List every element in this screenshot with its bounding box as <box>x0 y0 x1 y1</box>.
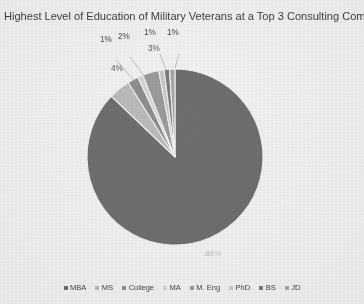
legend-label: MBA <box>70 283 86 292</box>
legend-label: College <box>129 283 154 292</box>
legend-item-jd[interactable]: JD <box>285 283 301 292</box>
leader-line <box>160 54 166 70</box>
legend-swatch-icon <box>95 286 99 290</box>
legend-item-mba[interactable]: MBA <box>64 283 87 292</box>
pie-chart-graphic <box>0 22 364 278</box>
legend-label: MA <box>170 283 181 292</box>
legend-item-bs[interactable]: BS <box>259 283 276 292</box>
legend-label: BS <box>266 283 276 292</box>
legend-label: PhD <box>236 283 251 292</box>
slice-label-mba: 88% <box>205 249 221 258</box>
legend-item-phd[interactable]: PhD <box>229 283 250 292</box>
slice-label-college: 4% <box>111 64 123 73</box>
legend-label: MS <box>102 283 113 292</box>
legend-label: M. Eng <box>196 283 220 292</box>
legend-swatch-icon <box>190 286 194 290</box>
callout-label-ma: 1% <box>167 28 179 37</box>
legend-swatch-icon <box>163 286 167 290</box>
legend-swatch-icon <box>229 286 233 290</box>
pie-chart-plot-area: 1% 2% 1% 1% 4% 3% 88% <box>0 22 364 278</box>
callout-label-phd: 1% <box>144 28 156 37</box>
pie-slice-group <box>87 54 263 245</box>
chart-title: Highest Level of Education of Military V… <box>4 9 362 23</box>
callout-label-bs: 2% <box>118 32 130 41</box>
leader-line <box>175 54 179 68</box>
legend-swatch-icon <box>285 286 289 290</box>
legend-item-ma[interactable]: MA <box>163 283 181 292</box>
legend-item-college[interactable]: College <box>122 283 154 292</box>
legend-swatch-icon <box>64 286 68 290</box>
legend-label: JD <box>291 283 300 292</box>
legend-swatch-icon <box>259 286 263 290</box>
chart-legend: MBAMSCollegeMAM. EngPhDBSJD <box>0 283 364 292</box>
callout-label-jd: 1% <box>100 35 112 44</box>
slice-label-meng: 3% <box>148 44 160 53</box>
legend-item-m-eng[interactable]: M. Eng <box>190 283 220 292</box>
legend-item-ms[interactable]: MS <box>95 283 113 292</box>
legend-swatch-icon <box>122 286 126 290</box>
leader-line <box>130 57 145 77</box>
